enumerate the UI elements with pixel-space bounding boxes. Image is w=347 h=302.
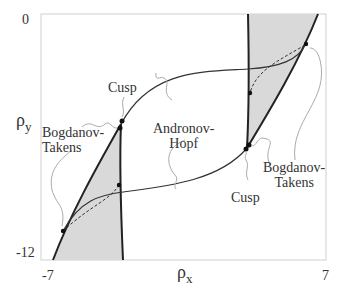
fold-curve-right-inner (247, 14, 249, 148)
label-bt-right: Bogdanov- Takens (263, 160, 325, 190)
leader-bt-left-lower (51, 150, 72, 226)
label-cusp-upper: Cusp (108, 80, 137, 95)
x-axis-label: ρx (177, 262, 192, 287)
leader-cusp-upper (122, 97, 124, 117)
y-axis-symbol: ρ (16, 110, 25, 130)
label-bt-left: Bogdanov- Takens (42, 125, 104, 155)
saddle-node-region-right (247, 14, 318, 148)
bt-point-left-upper (118, 126, 123, 131)
y-axis-label: ρy (16, 110, 31, 135)
label-bt-right-line2: Takens (263, 175, 325, 190)
bt-point-right-upper (304, 42, 308, 46)
point-left-inner (117, 183, 121, 187)
label-bt-right-line1: Bogdanov- (263, 160, 325, 175)
x-axis-subscript: x (186, 271, 193, 286)
x-tick-max: 7 (322, 268, 329, 283)
leader-bt-right-upper (295, 48, 322, 160)
label-hopf-line2: Hopf (153, 136, 214, 151)
cusp-point-right (244, 147, 249, 152)
point-right-inner (248, 91, 252, 95)
label-cusp-lower: Cusp (231, 190, 260, 205)
label-bt-left-line1: Bogdanov- (42, 125, 104, 140)
y-axis-subscript: y (25, 119, 32, 134)
label-hopf-line1: Andronov- (153, 121, 214, 136)
y-tick-max: 0 (22, 12, 29, 27)
label-bt-left-line2: Takens (42, 140, 104, 155)
bt-point-right-lower (247, 143, 252, 148)
leader-cusp-lower (245, 152, 248, 180)
y-tick-min: -12 (16, 245, 35, 260)
cusp-point-left (120, 119, 125, 124)
bt-point-left-lower (61, 229, 65, 233)
x-tick-min: -7 (42, 268, 54, 283)
label-andronov-hopf: Andronov- Hopf (153, 121, 214, 151)
leader-hopf-upper (156, 73, 172, 100)
x-axis-symbol: ρ (177, 262, 186, 282)
